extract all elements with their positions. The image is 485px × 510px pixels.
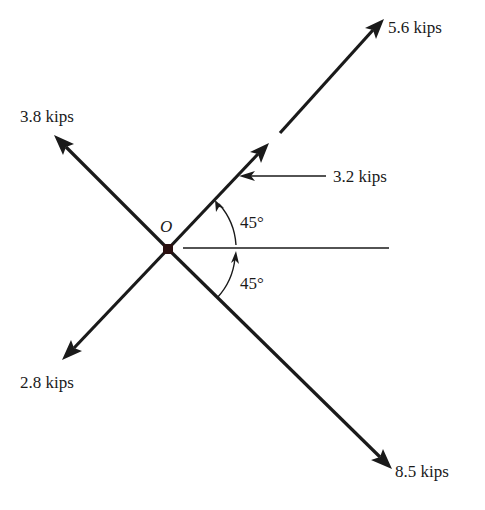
force-5-6-kips	[280, 19, 384, 133]
force-2-8-kips	[62, 249, 168, 360]
force-upper-right-short	[168, 143, 269, 249]
origin-label: O	[160, 217, 172, 236]
arc	[217, 258, 235, 298]
force-line	[74, 249, 168, 348]
force-line	[168, 249, 380, 457]
label-angle-upper: 45°	[240, 213, 264, 232]
label-5-6-kips: 5.6 kips	[388, 18, 442, 37]
force-line	[168, 154, 258, 249]
angle-arc-upper	[215, 200, 236, 245]
force-8-5-kips	[168, 249, 392, 469]
label-3-2-kips: 3.2 kips	[333, 167, 387, 186]
force-diagram: O 5.6 kips 3.8 kips 2.8 kips 8.5 kips 3.…	[0, 0, 485, 510]
arrowhead-icon	[215, 200, 224, 212]
origin-point-icon	[163, 244, 173, 254]
angle-arc-lower	[217, 251, 239, 298]
force-3-2-kips	[239, 171, 326, 181]
force-line	[66, 147, 168, 249]
force-line	[280, 30, 373, 133]
label-angle-lower: 45°	[240, 274, 264, 293]
force-3-8-kips	[54, 135, 168, 249]
label-8-5-kips: 8.5 kips	[395, 462, 449, 481]
label-3-8-kips: 3.8 kips	[20, 107, 74, 126]
label-2-8-kips: 2.8 kips	[20, 373, 74, 392]
arc	[219, 204, 236, 245]
